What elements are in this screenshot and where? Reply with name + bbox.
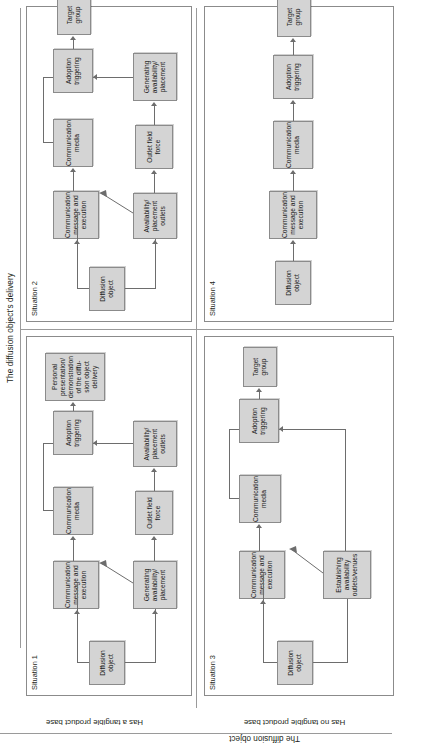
situation-1-label: Situation 1 [30,655,39,690]
s1-node-comm-media: Communication media [53,487,93,535]
s4-node-comm-media: Communication media [273,121,313,169]
s1-conn-do-elbow-v [77,662,89,663]
s1-conn-off-avail [154,472,155,491]
s2-node-outlet-field-force: Outlet field force [135,125,173,169]
s1-merge-media-v [43,510,53,511]
s3-merge-top [229,429,230,499]
situation-3-label: Situation 3 [208,655,217,690]
s2-node-comm-message: Communication message and execution [53,191,99,239]
s3-conn-do-elbow-v [263,662,277,663]
s1-node-availability-outlets: Availability/ placement outlets [133,421,177,467]
column-axis-title: The diffusion object's delivery [6,8,15,648]
s2-arrow-do-to-avail [152,240,158,244]
rotated-figure-wrapper: The diffusion object's delivery Requires… [0,0,432,756]
s2-arrow-do-to-comm [74,240,80,244]
s2-conn-do-elbow-v [77,288,89,289]
s2-merge-media-v [43,142,53,143]
s1-merge-top [43,443,44,511]
s2-conn-adopt-target [73,40,74,49]
s2-merge-top [43,77,44,143]
s3-conn-do-down-h [347,599,348,663]
row-header-tangible: Has a tangible product base [0,718,193,727]
s4-node-target-group: Target group [277,0,311,37]
s3-merge-estab-down [279,429,345,430]
s4-arrow-adopt-to-target [290,38,296,42]
s2-node-adoption-triggering: Adoption triggering [53,49,93,93]
s2-arrow-msg-to-media [70,168,76,172]
row-axis-title-holder: The diffusion object [0,734,432,752]
s2-node-comm-media: Communication media [53,119,93,167]
situation-4-label: Situation 4 [208,281,217,316]
s1-node-adoption-triggering: Adoption triggering [53,411,93,455]
s2-merge-gen-v [43,77,53,78]
s1-arrow-do-to-gen [152,610,158,614]
s1-node-generating-availability: Generating availability/ placement [133,561,177,609]
s3-node-comm-message: Communication message and execution [239,551,285,599]
s4-conn-do-msg [293,244,294,261]
s4-node-adoption-triggering: Adoption triggering [273,55,313,99]
panel-situation-3: Situation 3 Diffusion object Communicati… [204,336,394,696]
s1-node-outlet-field-force: Outlet field force [135,491,173,535]
s4-conn-adopt-target [293,42,294,55]
s4-conn-msg-media [293,174,294,191]
row-header-no-tangible: Has no tangible product base [197,718,393,727]
s2-arrow-off-to-gen [151,102,157,106]
diffusion-matrix-figure: The diffusion object's delivery Requires… [0,0,432,756]
s2-conn-do-elbow-h [77,215,78,289]
s1-arrow-do-to-comm [74,610,80,614]
s2-conn-do-down-h [155,239,156,289]
s3-node-target-group: Target group [243,347,277,387]
s1-conn-msg-media [73,540,74,561]
s3-conn-msg-media [259,528,260,551]
s1-arrow-gen-to-off [151,536,157,540]
row-axis-title: The diffusion object [229,734,300,743]
s2-node-availability-outlets: Availability/ placement outlets [133,193,177,239]
s4-node-diffusion-object: Diffusion object [275,261,311,305]
s2-arrow-adopt-to-target [70,36,76,40]
s1-merge-avail-down [93,443,133,444]
s2-node-diffusion-object: Diffusion object [89,267,125,311]
s2-conn-msg-media [73,172,74,191]
s2-arrow-avail-to-off [151,170,157,174]
s1-conn-do-down-v [125,662,155,663]
column-axis-rule [20,8,21,648]
s1-conn-do-down-h [155,609,156,663]
panel-situation-1: Situation 1 Diffusion object Communicati… [26,336,192,696]
panel-situation-2: Situation 2 Diffusion object Communicati… [26,6,192,322]
s3-conn-do-down-v [313,662,347,663]
s3-node-establishing-availability: Establishing availability outlets/venues [323,551,371,599]
s3-arrow-adopt-to-target [256,388,262,392]
s3-node-comm-media: Communication media [239,475,281,523]
s1-node-diffusion-object: Diffusion object [89,641,125,685]
s3-node-diffusion-object: Diffusion object [277,641,313,685]
s4-arrow-media-to-adopt [290,100,296,104]
s3-node-adoption-triggering: Adoption triggering [239,399,279,443]
s1-conn-adopt-pers [73,406,74,411]
s3-arrow-to-adoption [279,426,283,432]
s1-merge-avail-v [43,443,53,444]
s1-conn-do-elbow-h [77,585,78,663]
column-divider [20,329,392,330]
s3-merge-media-v [229,498,239,499]
s2-arrow-to-adoption [93,74,97,80]
situation-2-label: Situation 2 [30,281,39,316]
s4-conn-media-adopt [293,104,294,121]
s2-conn-do-down-v [125,288,155,289]
s3-conn-adopt-target [259,392,260,399]
s1-arrow-adopt-to-pers [70,402,76,406]
s3-merge-estab-v [229,429,239,430]
s2-conn-avail-off [154,174,155,193]
panel-situation-4: Situation 4 Diffusion object Communicati… [204,6,394,322]
s1-arrow-to-adoption [93,440,97,446]
s3-arrow-do-to-comm [260,600,266,604]
s4-arrow-msg-to-media [290,170,296,174]
s2-conn-off-gen [154,106,155,125]
s1-node-comm-message: Communication message and execution [53,561,99,609]
s1-node-personal-presentation: Personal presentation/ demonstration of … [45,353,105,401]
s4-node-comm-message: Communication message and execution [269,191,317,239]
s3-conn-do-elbow-h [263,575,264,663]
s3-merge-estab-h [345,429,346,551]
s4-arrow-do-to-msg [290,240,296,244]
row-axis-rule [0,733,392,734]
s1-arrow-msg-to-media [70,536,76,540]
